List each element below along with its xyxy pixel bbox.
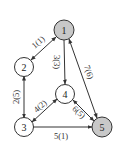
edge-label-3-4: 4(2) [31,97,48,114]
edge-1-4 [64,40,65,84]
edge-label-1-5: 7(6) [82,64,96,81]
node-2: 2 [15,58,34,77]
node-4: 4 [56,85,75,104]
edge-label-4-5: 6(5) [70,104,87,121]
node-4-label: 4 [63,89,68,100]
edge-label-3-5: 5(1) [54,131,68,141]
edge-1-5 [69,39,97,118]
node-5: 5 [92,117,112,137]
node-3: 3 [15,118,34,137]
node-3-label: 3 [22,122,27,133]
node-1-label: 1 [62,25,67,36]
node-2-label: 2 [22,62,27,73]
node-5-label: 5 [100,122,105,133]
edge-label-1-4: 3(3) [52,55,62,69]
graph-diagram: 1(1) 3(3) 7(6) 2(5) 4(2) 6(5) 5(1) 1 2 3… [0,0,115,151]
node-1: 1 [54,20,74,40]
edge-label-2-3: 2(5) [11,90,21,104]
